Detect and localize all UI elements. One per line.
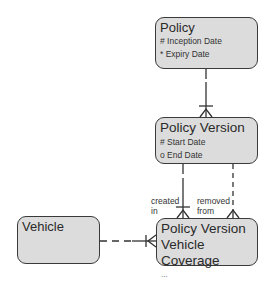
relationship-label-removed-from: removed from [197,196,230,216]
entity-attribute: o End Date [160,149,253,162]
entity-attribute: * Expiry Date [160,48,253,61]
entity-policy-version-vehicle-coverage[interactable]: Policy Version Vehicle Coverage ... [156,218,258,266]
entity-title: Policy Version [160,120,253,136]
entity-title-line: Vehicle Coverage [161,237,253,269]
entity-policy-version[interactable]: Policy Version # Start Date o End Date [155,117,258,164]
entity-attribute: # Inception Date [160,35,253,48]
entity-more: ... [161,269,253,281]
relationship-label-created-in: created in [151,196,179,216]
entity-policy[interactable]: Policy # Inception Date * Expiry Date [155,17,258,69]
entity-title: Vehicle [22,219,95,234]
entity-title-line: Policy Version [161,221,253,237]
entity-attribute: # Start Date [160,136,253,149]
entity-title: Policy [160,20,253,35]
entity-vehicle[interactable]: Vehicle [17,216,100,264]
